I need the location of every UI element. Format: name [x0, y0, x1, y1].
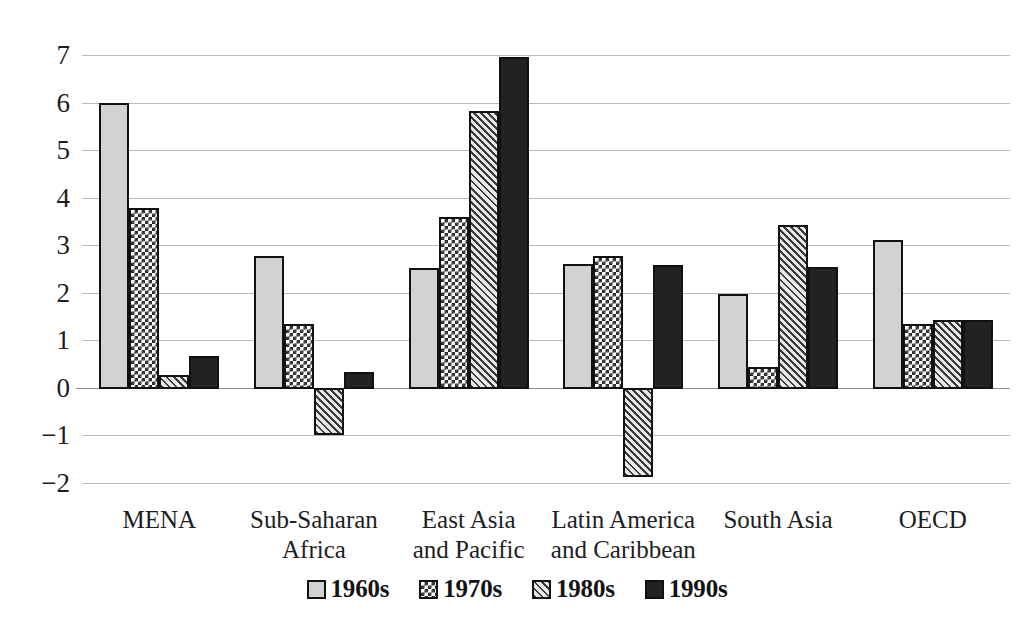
bar-1990s [963, 320, 993, 389]
legend-item[interactable]: 1960s [307, 575, 390, 603]
x-axis-label: OECD [841, 505, 1024, 535]
y-axis-tick-label: 0 [14, 374, 70, 401]
plot-area [82, 55, 1010, 483]
bar-1990s [653, 265, 683, 389]
legend-label: 1960s [331, 575, 390, 603]
bar-1990s [189, 356, 219, 389]
bar-group [99, 55, 219, 483]
bar-1970s [439, 217, 469, 389]
grouped-bar-chart: 76543210−1−2 MENASub-Saharan AfricaEast … [0, 0, 1034, 627]
bar-1980s [159, 375, 189, 389]
bar-1970s [129, 208, 159, 389]
bar-1980s [778, 225, 808, 389]
legend-swatch-icon [307, 580, 326, 599]
y-axis-tick-label: 2 [14, 279, 70, 306]
bar-group [254, 55, 374, 483]
bar-1970s [593, 256, 623, 389]
legend-label: 1980s [556, 575, 615, 603]
y-axis-tick-label: −1 [14, 422, 70, 449]
bar-1970s [903, 324, 933, 389]
bar-1960s [99, 103, 129, 389]
bar-1980s [623, 388, 653, 477]
y-axis-tick-label: 5 [14, 137, 70, 164]
bar-1990s [344, 372, 374, 389]
bar-1960s [254, 256, 284, 389]
bar-1960s [563, 264, 593, 389]
legend-item[interactable]: 1980s [532, 575, 615, 603]
bar-1960s [718, 294, 748, 389]
legend-swatch-icon [532, 580, 551, 599]
bar-group [873, 55, 993, 483]
legend-label: 1990s [669, 575, 728, 603]
chart-legend: 1960s1970s1980s1990s [0, 575, 1034, 603]
y-axis-tick-label: 6 [14, 89, 70, 116]
bar-1990s [499, 57, 529, 389]
y-axis-tick-label: 4 [14, 184, 70, 211]
legend-swatch-icon [645, 580, 664, 599]
bar-group [718, 55, 838, 483]
bar-1980s [469, 111, 499, 389]
bar-1990s [808, 267, 838, 389]
gridline [82, 483, 1010, 484]
legend-label: 1970s [443, 575, 502, 603]
bar-group [563, 55, 683, 483]
y-axis-tick-label: 7 [14, 42, 70, 69]
bar-1970s [748, 367, 778, 388]
bar-1980s [933, 320, 963, 389]
legend-swatch-icon [419, 580, 438, 599]
y-axis-tick-label: 3 [14, 232, 70, 259]
bar-1960s [409, 268, 439, 389]
y-axis-tick-label: −2 [14, 470, 70, 497]
y-axis-tick-label: 1 [14, 327, 70, 354]
bar-1960s [873, 240, 903, 389]
legend-item[interactable]: 1970s [419, 575, 502, 603]
bar-1980s [314, 388, 344, 435]
bar-group [409, 55, 529, 483]
legend-item[interactable]: 1990s [645, 575, 728, 603]
bar-1970s [284, 324, 314, 389]
